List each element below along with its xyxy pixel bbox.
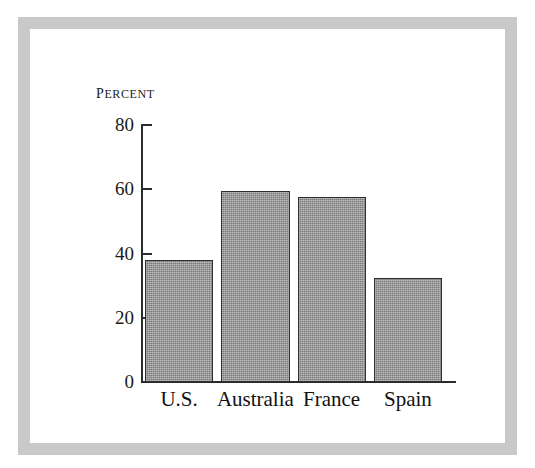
y-axis-tick-80 (141, 124, 152, 126)
bar-us (145, 260, 213, 382)
bar-france (298, 197, 366, 382)
y-axis-tick-label: 20 (94, 308, 134, 327)
y-axis-tick-label: 40 (94, 244, 134, 263)
figure-root: Percent 020406080 U.S.AustraliaFranceSpa… (0, 0, 535, 468)
y-axis-tick-40 (141, 253, 152, 255)
y-axis-tick-label: 60 (94, 179, 134, 198)
y-axis-tick-60 (141, 188, 152, 190)
bar-chart: Percent 020406080 U.S.AustraliaFranceSpa… (0, 0, 535, 468)
y-axis-tick-label: 80 (94, 115, 134, 134)
x-axis-label-france: France (292, 388, 372, 411)
x-axis-label-us: U.S. (139, 388, 219, 411)
x-axis-label-spain: Spain (368, 388, 448, 411)
x-axis-label-australia: Australia (215, 388, 295, 411)
bar-australia (221, 191, 289, 382)
y-axis-tick-label: 0 (94, 372, 134, 391)
y-axis-title: Percent (96, 80, 155, 103)
bar-spain (374, 278, 442, 382)
